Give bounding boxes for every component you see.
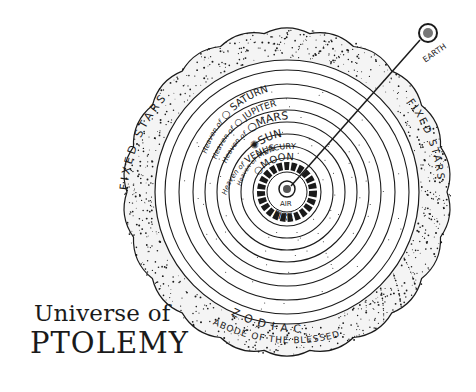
- title-line-1: Universe of: [30, 300, 189, 326]
- earth-label: EARTH: [421, 42, 448, 65]
- label-air: AIR: [280, 200, 292, 208]
- earth-marker: [419, 24, 437, 42]
- diagram-title: Universe of PTOLEMY: [30, 300, 189, 360]
- title-line-2: PTOLEMY: [30, 326, 189, 360]
